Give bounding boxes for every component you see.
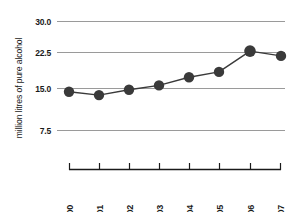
y-tick-label-7-5: 7.5 [40,126,52,136]
x-tick-label-2005: 2005 [215,205,225,212]
y-tick-label-30: 30.0 [35,17,51,27]
data-point-2007[interactable] [276,51,286,61]
x-tick-label-2000: 2000 [65,205,75,212]
data-point-2006[interactable] [244,45,256,57]
chart-canvas: 30.0 22.5 15.0 7.5 million litres of pur… [0,0,304,212]
y-axis-title: million litres of pure alcohol [14,37,24,138]
data-point-2001[interactable] [94,90,104,100]
chart-background [0,0,304,212]
x-tick-label-2004: 2004 [185,205,195,212]
line-chart-figure: 30.0 22.5 15.0 7.5 million litres of pur… [0,0,304,212]
data-point-2004[interactable] [184,72,194,82]
x-tick-label-2006: 2006 [246,205,256,212]
x-tick-label-2002: 2002 [125,205,135,212]
y-tick-label-22-5: 22.5 [35,48,51,58]
x-tick-label-2001: 2001 [95,205,105,212]
data-point-2003[interactable] [154,80,164,90]
x-tick-label-2007: 2007 [276,205,286,212]
x-tick-label-2003: 2003 [155,205,165,212]
data-point-2002[interactable] [124,85,134,95]
data-point-2005[interactable] [214,67,224,77]
data-point-2000[interactable] [64,87,74,97]
y-axis-title-group: million litres of pure alcohol [14,37,24,138]
y-tick-label-15: 15.0 [35,84,51,94]
